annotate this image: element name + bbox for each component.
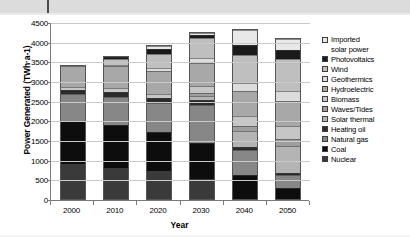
bar-2030[interactable] (189, 32, 215, 200)
y-tick-mark (48, 141, 51, 142)
y-tick-label: 3500 (14, 58, 48, 67)
plot-area (50, 23, 309, 201)
bar-segment (233, 45, 257, 55)
legend-item[interactable]: Waves/Tides (322, 105, 410, 115)
legend-swatch-icon (322, 56, 328, 62)
y-tick-mark (48, 62, 51, 63)
legend-swatch-icon (322, 126, 328, 132)
x-tick-mark (50, 201, 51, 205)
legend-item[interactable]: Geothermics (322, 75, 410, 85)
legend-label: Natural gas (331, 135, 368, 145)
bar-segment (276, 146, 300, 174)
gridline (51, 161, 310, 162)
legend-label: Wind (331, 65, 348, 75)
stacked-bar-chart: Power Generated (TWh·a-1) 05001000150020… (0, 15, 410, 237)
bar-segment (104, 168, 128, 199)
legend-item[interactable]: Imported solar power (322, 35, 410, 54)
y-tick-mark (48, 23, 51, 24)
legend-item[interactable]: Photovoltaics (322, 55, 410, 65)
scan-bottom-edge (0, 235, 410, 237)
scan-header-band (0, 0, 410, 14)
bar-segment (147, 132, 171, 171)
legend-swatch-icon (322, 136, 328, 142)
legend-item[interactable]: Coal (322, 145, 410, 155)
y-tick-label: 0 (14, 196, 48, 205)
bar-segment (233, 150, 257, 174)
x-axis-tick-labels: 200020102020203020402050 (50, 206, 309, 220)
legend-item[interactable]: Natural gas (322, 135, 410, 145)
x-tick-label-2030: 2030 (178, 206, 224, 215)
gridline (51, 23, 310, 24)
bar-segment (276, 91, 300, 101)
gridline (51, 102, 310, 103)
legend-item[interactable]: Nuclear (322, 155, 410, 165)
bar-2040[interactable] (232, 29, 258, 200)
legend-swatch-icon (322, 76, 328, 82)
y-tick-label: 1500 (14, 137, 48, 146)
bar-segment (276, 39, 300, 50)
bar-segment (276, 59, 300, 90)
legend-item[interactable]: Biomass (322, 95, 410, 105)
x-tick-mark (136, 201, 137, 205)
legend-swatch-icon (322, 146, 328, 152)
x-tick-label-2000: 2000 (49, 206, 95, 215)
legend-label: Geothermics (331, 75, 372, 85)
bar-group (51, 23, 310, 200)
gridline (51, 62, 310, 63)
gridline (51, 121, 310, 122)
y-tick-mark (48, 180, 51, 181)
x-tick-mark (93, 201, 94, 205)
legend-label: Coal (331, 145, 346, 155)
legend-label: Waves/Tides (331, 105, 373, 115)
legend-swatch-icon (322, 86, 328, 92)
chart-page: Power Generated (TWh·a-1) 05001000150020… (0, 0, 410, 237)
y-tick-mark (48, 43, 51, 44)
y-tick-mark (48, 121, 51, 122)
y-tick-label: 2500 (14, 97, 48, 106)
legend-swatch-icon (322, 106, 328, 112)
y-tick-label: 500 (14, 176, 48, 185)
x-tick-mark (223, 201, 224, 205)
bar-segment (190, 105, 214, 144)
legend-item[interactable]: Hydroelectric (322, 85, 410, 95)
page-crop-mark (47, 0, 49, 13)
legend-swatch-icon (322, 116, 328, 122)
bar-2010[interactable] (103, 56, 129, 200)
x-tick-label-2010: 2010 (92, 206, 138, 215)
bar-segment (233, 91, 257, 115)
bar-segment (61, 121, 85, 163)
x-tick-label-2040: 2040 (221, 206, 267, 215)
bar-2020[interactable] (146, 45, 172, 200)
legend-item[interactable]: Wind (322, 65, 410, 75)
bar-segment (233, 131, 257, 148)
bar-segment (190, 179, 214, 199)
bar-segment (104, 66, 128, 88)
chart-legend: Imported solar powerPhotovoltaicsWindGeo… (322, 35, 410, 165)
gridline (51, 82, 310, 83)
x-tick-mark (266, 201, 267, 205)
y-tick-mark (48, 82, 51, 83)
bar-segment (233, 175, 257, 199)
legend-swatch-icon (322, 96, 328, 102)
y-tick-mark (48, 102, 51, 103)
x-tick-mark (180, 201, 181, 205)
legend-swatch-icon (322, 66, 328, 72)
legend-label: Heating oil (331, 125, 365, 135)
legend-swatch-icon (322, 156, 328, 162)
legend-label: Nuclear (331, 155, 356, 165)
bar-segment (276, 188, 300, 199)
bar-segment (276, 126, 300, 139)
bar-segment (61, 94, 85, 121)
gridline (51, 180, 310, 181)
y-tick-label: 1000 (14, 156, 48, 165)
bar-segment (233, 55, 257, 83)
legend-swatch-icon (322, 37, 328, 43)
y-tick-label: 2000 (14, 117, 48, 126)
legend-item[interactable]: Heating oil (322, 125, 410, 135)
x-tick-label-2050: 2050 (264, 206, 310, 215)
y-tick-mark (48, 161, 51, 162)
y-tick-label: 4500 (14, 19, 48, 28)
legend-item[interactable]: Solar thermal (322, 115, 410, 125)
legend-label: Photovoltaics (331, 55, 374, 65)
legend-label: Imported solar power (331, 35, 369, 54)
